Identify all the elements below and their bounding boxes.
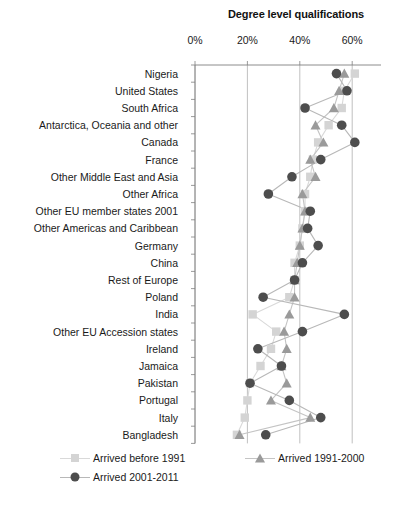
data-point-marker — [282, 344, 292, 353]
data-point-marker — [332, 69, 342, 79]
y-axis-category-label: South Africa — [121, 103, 178, 114]
y-axis-category-label: Nigeria — [145, 68, 178, 79]
y-axis-category-label: Poland — [145, 292, 178, 303]
data-point-marker — [329, 103, 339, 112]
y-axis-category-label: Pakistan — [138, 378, 178, 389]
data-point-marker — [264, 189, 274, 199]
data-point-marker — [287, 172, 297, 182]
data-point-marker — [282, 378, 292, 387]
y-axis-category-label: Rest of Europe — [108, 275, 178, 286]
y-axis-category-label: China — [151, 257, 178, 268]
data-point-marker — [290, 275, 300, 285]
y-axis-category-labels: NigeriaUnited StatesSouth AfricaAntarcti… — [0, 65, 190, 443]
square-marker — [60, 452, 90, 464]
data-point-marker — [337, 120, 347, 130]
y-axis-category-label: France — [145, 154, 178, 165]
x-axis-tick-40pct: 40% — [289, 34, 310, 46]
data-point-marker — [284, 309, 294, 318]
data-point-marker — [298, 327, 308, 337]
y-axis-category-label: Portugal — [139, 395, 178, 406]
data-point-marker — [298, 258, 308, 268]
data-point-marker — [342, 86, 352, 96]
legend-label: Arrived 1991-2000 — [278, 452, 364, 464]
y-axis-category-label: Other Africa — [123, 189, 178, 200]
data-point-marker — [253, 344, 263, 354]
x-axis-tick-0pct: 0% — [187, 34, 202, 46]
y-axis-category-label: Germany — [135, 240, 178, 251]
data-point-marker — [324, 121, 332, 129]
legend-item-0[interactable]: Arrived before 1991 — [60, 452, 185, 464]
data-point-marker — [350, 138, 360, 148]
data-point-marker — [243, 396, 251, 404]
degree-level-qualifications-chart: Degree level qualifications 0%20%40%60% … — [0, 0, 398, 511]
data-point-marker — [285, 396, 295, 406]
data-point-marker — [351, 69, 359, 77]
x-axis-tick-60pct: 60% — [342, 34, 363, 46]
data-point-marker — [248, 310, 256, 318]
data-point-marker — [245, 378, 255, 388]
y-axis-category-label: Other EU member states 2001 — [36, 206, 178, 217]
data-point-marker — [340, 310, 350, 320]
chart-title: Degree level qualifications — [196, 8, 396, 20]
y-axis-category-label: Canada — [141, 137, 178, 148]
triangle-marker — [245, 452, 275, 464]
y-axis-category-label: United States — [115, 85, 178, 96]
plot-svg — [186, 60, 390, 452]
data-point-marker — [316, 155, 326, 165]
data-point-marker — [261, 430, 271, 440]
data-point-marker — [258, 292, 268, 302]
y-axis-category-label: India — [155, 309, 178, 320]
y-axis-category-label: Jamaica — [139, 361, 178, 372]
plot-area — [195, 65, 381, 443]
data-point-marker — [300, 103, 310, 113]
chart-legend: Arrived before 1991Arrived 1991-2000Arri… — [60, 452, 390, 498]
legend-label: Arrived before 1991 — [93, 452, 185, 464]
data-point-marker — [256, 362, 264, 370]
data-point-marker — [303, 224, 313, 234]
y-axis-category-label: Antarctica, Oceania and other — [39, 120, 178, 131]
legend-label: Arrived 2001-2011 — [93, 471, 179, 483]
data-point-marker — [267, 345, 275, 353]
legend-item-2[interactable]: Arrived 2001-2011 — [60, 471, 179, 483]
x-axis-tick-20pct: 20% — [237, 34, 258, 46]
data-point-marker — [277, 361, 287, 371]
circle-marker — [60, 471, 90, 483]
y-axis-category-label: Ireland — [146, 343, 178, 354]
legend-item-1[interactable]: Arrived 1991-2000 — [245, 452, 364, 464]
y-axis-category-label: Italy — [159, 412, 178, 423]
y-axis-category-label: Other EU Accession states — [53, 326, 178, 337]
data-point-marker — [241, 413, 249, 421]
y-axis-category-label: Bangladesh — [123, 429, 178, 440]
data-point-marker — [305, 206, 315, 216]
data-point-marker — [338, 104, 346, 112]
y-axis-category-label: Other Americas and Caribbean — [34, 223, 178, 234]
data-point-marker — [316, 413, 326, 423]
data-point-marker — [279, 327, 289, 336]
y-axis-category-label: Other Middle East and Asia — [51, 171, 178, 182]
data-point-marker — [313, 241, 323, 251]
data-point-marker — [272, 327, 280, 335]
